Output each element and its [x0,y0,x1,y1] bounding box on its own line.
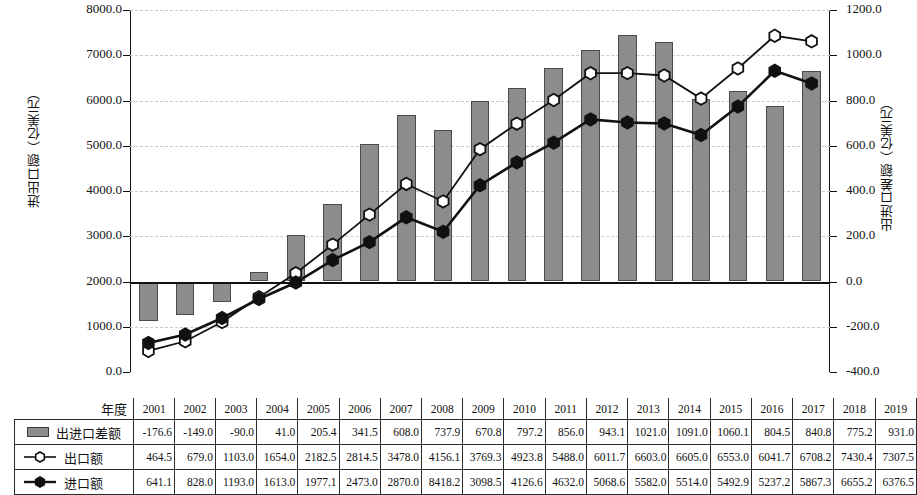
y-axis-left-tick-label: 2000.0 [32,273,122,289]
table-cell: 4126.6 [504,470,545,495]
table-cell: 641.1 [134,470,175,495]
y-axis-left-tick-label: 7000.0 [32,46,122,62]
legend-item-0: 出进口差额 [15,420,134,445]
table-cell: 6041.7 [751,445,792,470]
y-axis-left-tick-label: 4000.0 [32,182,122,198]
y-axis-left-tick [123,191,130,192]
y-axis-right-title: 出进口差额（亿美元） [877,96,896,231]
data-point-marker [585,67,596,79]
year-header-cell: 2019 [875,398,916,420]
data-point-marker [401,211,412,223]
data-point-marker [327,254,338,266]
data-point-marker [475,143,486,155]
data-point-marker [364,236,375,248]
data-point-marker [733,62,744,74]
table-cell: 6605.0 [669,445,710,470]
legend-label: 出口额 [64,448,103,467]
data-point-marker [806,77,817,89]
year-header-cell: 2013 [628,398,669,420]
y-axis-left-tick [123,327,130,328]
table-cell: 804.5 [751,420,792,445]
table-cell: 6553.0 [710,445,751,470]
table-cell: 775.2 [834,420,875,445]
line-series-import [143,65,817,350]
table-cell: 1977.1 [298,470,339,495]
table-cell: 608.0 [380,420,421,445]
table-cell: -176.6 [134,420,175,445]
data-point-marker [438,226,449,238]
table-cell: -90.0 [215,420,256,445]
legend-line-swatch [23,476,57,488]
table-cell: 679.0 [175,445,216,470]
table-cell: 5582.0 [628,470,669,495]
data-point-marker [217,312,228,324]
year-header-cell: 2001 [134,398,175,420]
x-axis-title: 年度 [15,398,134,420]
legend-item-1: 出口额 [15,445,134,470]
table-cell: 5488.0 [545,445,586,470]
table-cell: 5492.9 [710,470,751,495]
table-cell: 797.2 [504,420,545,445]
year-header-cell: 2011 [545,398,586,420]
table-cell: 856.0 [545,420,586,445]
data-point-marker [438,195,449,207]
table-cell: 4632.0 [545,470,586,495]
y-axis-right-tick [830,236,837,237]
table-cell: -149.0 [175,420,216,445]
table-cell: 828.0 [175,470,216,495]
y-axis-right-tick [830,101,837,102]
y-axis-right-tick-label: -200.0 [846,318,880,334]
data-table-wrap: 年度20012002200320042005200620072008200920… [0,372,917,484]
table-cell: 6011.7 [586,445,627,470]
y-axis-left-tick-label: 8000.0 [32,1,122,17]
table-cell: 3769.3 [463,445,504,470]
table-cell: 943.1 [586,420,627,445]
table-cell: 4156.1 [422,445,463,470]
data-point-marker [511,156,522,168]
y-axis-right-tick [830,10,837,11]
table-cell: 2870.0 [380,470,421,495]
year-header-cell: 2017 [793,398,834,420]
year-header-cell: 2012 [586,398,627,420]
table-cell: 6655.2 [834,470,875,495]
table-cell: 3098.5 [463,470,504,495]
table-cell: 2473.0 [339,470,380,495]
year-header-cell: 2018 [834,398,875,420]
data-point-marker [696,129,707,141]
y-axis-right-tick-label: 800.0 [846,92,875,108]
data-point-marker [622,67,633,79]
data-point-marker [475,179,486,191]
legend-label: 进口额 [64,473,103,492]
table-cell: 1103.0 [215,445,256,470]
y-axis-right-tick-label: 600.0 [846,137,875,153]
year-header-cell: 2008 [422,398,463,420]
data-point-marker [327,238,338,250]
table-cell: 7430.4 [834,445,875,470]
year-header-cell: 2007 [380,398,421,420]
y-axis-right-tick-label: 400.0 [846,182,875,198]
table-cell: 7307.5 [875,445,916,470]
table-cell: 1060.1 [710,420,751,445]
table-cell: 6603.0 [628,445,669,470]
table-cell: 840.8 [793,420,834,445]
data-point-marker [364,208,375,220]
table-cell: 8418.2 [422,470,463,495]
data-table: 年度20012002200320042005200620072008200920… [14,398,917,495]
data-point-marker [254,293,265,305]
data-point-marker [806,35,817,47]
y-axis-left-tick-label: 6000.0 [32,92,122,108]
data-point-marker [769,65,780,77]
y-axis-right-tick-label: 1200.0 [846,1,882,17]
table-cell: 2814.5 [339,445,380,470]
table-cell: 41.0 [257,420,298,445]
data-point-marker [769,30,780,42]
table-cell: 1091.0 [669,420,710,445]
legend-line-swatch [23,451,57,463]
year-header-cell: 2005 [298,398,339,420]
table-cell: 1021.0 [628,420,669,445]
data-point-marker [143,337,154,349]
table-cell: 1654.0 [257,445,298,470]
year-header-cell: 2010 [504,398,545,420]
y-axis-right-tick-label: 0.0 [846,273,862,289]
